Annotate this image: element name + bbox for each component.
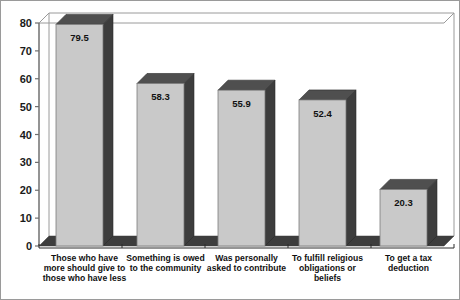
category-labels: Those who havemore should give tothose w…	[43, 253, 433, 283]
svg-text:40: 40	[20, 129, 32, 141]
category-label-line: asked to contribute	[207, 263, 286, 273]
bar-value-label: 55.9	[232, 98, 251, 109]
bar-chart: 01020304050607080 79.558.355.952.420.3 T…	[1, 1, 460, 300]
category-label-line: more should give to	[44, 263, 126, 273]
svg-text:0: 0	[26, 240, 32, 252]
svg-text:10: 10	[20, 212, 32, 224]
bar: 58.3	[137, 73, 194, 246]
category-label-line: beliefs	[314, 273, 341, 283]
svg-text:30: 30	[20, 156, 32, 168]
category-label-line: obligations or	[299, 263, 356, 273]
bar-value-label: 20.3	[394, 197, 413, 208]
bar-value-label: 58.3	[151, 91, 170, 102]
svg-text:60: 60	[20, 73, 32, 85]
category-label-line: To get a tax	[385, 253, 432, 263]
bar-value-label: 79.5	[70, 32, 89, 43]
chart-figure: 01020304050607080 79.558.355.952.420.3 T…	[0, 0, 460, 300]
bar: 20.3	[380, 179, 437, 246]
category-label-line: Was personally	[215, 253, 278, 263]
y-axis: 01020304050607080	[20, 17, 39, 252]
bar: 55.9	[218, 80, 275, 246]
bar: 79.5	[56, 14, 113, 246]
category-label-line: Something is owed	[126, 253, 204, 263]
bar-value-label: 52.4	[313, 108, 332, 119]
category-label-line: deduction	[388, 263, 429, 273]
svg-text:50: 50	[20, 101, 32, 113]
svg-text:70: 70	[20, 45, 32, 57]
category-label-line: those who have less	[43, 273, 127, 283]
category-label-line: to the community	[130, 263, 202, 273]
svg-text:80: 80	[20, 17, 32, 29]
category-label-line: Those who have	[51, 253, 118, 263]
category-label-line: To fulfill religious	[292, 253, 363, 263]
svg-text:20: 20	[20, 184, 32, 196]
bar: 52.4	[299, 90, 356, 246]
bar-series: 79.558.355.952.420.3	[56, 14, 437, 246]
